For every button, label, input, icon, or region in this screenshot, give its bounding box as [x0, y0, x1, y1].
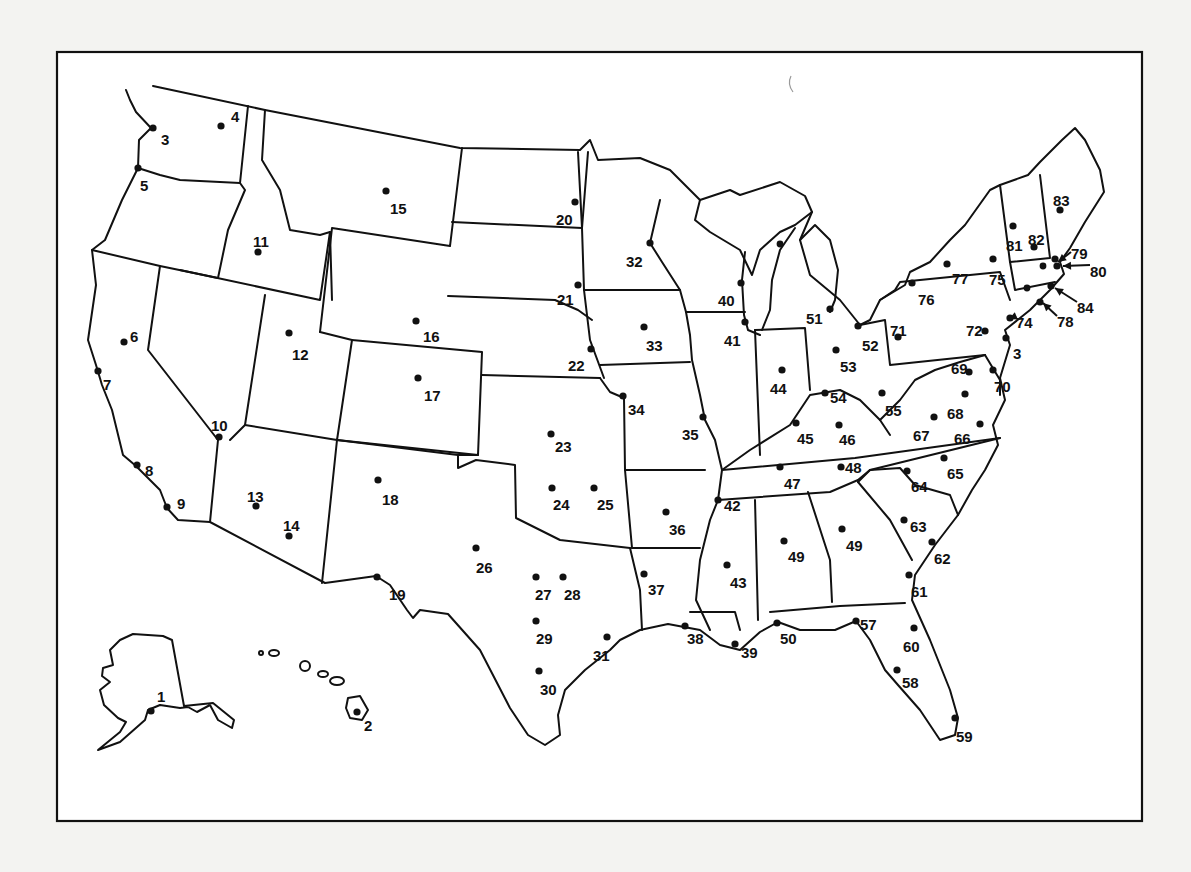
station-label: 48 — [845, 459, 862, 476]
station-dot-icon — [94, 367, 101, 374]
station-dot-icon — [1036, 298, 1043, 305]
station-dot-icon — [961, 390, 968, 397]
station-dot-icon — [285, 329, 292, 336]
station-label: 67 — [913, 427, 930, 444]
station-dot-icon — [832, 346, 839, 353]
station-dot-icon — [854, 322, 861, 329]
station-dot-icon — [1009, 222, 1016, 229]
station-label: 26 — [476, 559, 493, 576]
station-dot-icon — [838, 525, 845, 532]
station-dot-icon — [548, 484, 555, 491]
station-dot-icon — [910, 624, 917, 631]
station-label: 49 — [788, 548, 805, 565]
station-dot-icon — [940, 454, 947, 461]
station-marker: 82 — [1028, 231, 1045, 251]
station-label: 58 — [902, 674, 919, 691]
station-dot-icon — [737, 279, 744, 286]
station-label: 71 — [890, 322, 907, 339]
station-label: 16 — [423, 328, 440, 345]
station-label: 72 — [966, 322, 983, 339]
station-label: 77 — [952, 270, 969, 287]
station-label: 29 — [536, 630, 553, 647]
station-dot-icon — [640, 323, 647, 330]
station-dot-icon — [1053, 262, 1060, 269]
station-dot-icon — [414, 374, 421, 381]
station-label: 49 — [846, 537, 863, 554]
station-label: 27 — [535, 586, 552, 603]
station-label: 47 — [784, 475, 801, 492]
station-label: 82 — [1028, 231, 1045, 248]
station-label: 31 — [593, 647, 610, 664]
station-dot-icon — [951, 714, 958, 721]
station-label: 74 — [1016, 314, 1033, 331]
station-dot-icon — [776, 463, 783, 470]
station-label: 65 — [947, 465, 964, 482]
station-dot-icon — [217, 122, 224, 129]
station-dot-icon — [821, 389, 828, 396]
station-label: 83 — [1053, 192, 1070, 209]
station-label: 80 — [1090, 263, 1107, 280]
station-label: 52 — [862, 337, 879, 354]
station-label: 8 — [145, 462, 153, 479]
station-dot-icon — [532, 617, 539, 624]
station-dot-icon — [134, 164, 141, 171]
ny-west-dot-icon — [1024, 285, 1031, 292]
station-dot-icon — [535, 667, 542, 674]
station-label: 25 — [597, 496, 614, 513]
station-label: 84 — [1077, 299, 1094, 316]
station-label: 3 — [161, 131, 169, 148]
station-dot-icon — [353, 708, 360, 715]
station-label: 7 — [103, 376, 111, 393]
station-dot-icon — [532, 573, 539, 580]
station-label: 61 — [911, 583, 928, 600]
station-dot-icon — [778, 366, 785, 373]
station-label: 45 — [797, 430, 814, 447]
station-dot-icon — [826, 305, 833, 312]
station-label: 15 — [390, 200, 407, 217]
station-label: 35 — [682, 426, 699, 443]
station-dot-icon — [903, 467, 910, 474]
station-dot-icon — [878, 389, 885, 396]
station-dot-icon — [412, 317, 419, 324]
station-label: 37 — [648, 581, 665, 598]
station-dot-icon — [681, 622, 688, 629]
station-label: 21 — [557, 291, 574, 308]
station-label: 32 — [626, 253, 643, 270]
station-label: 70 — [994, 378, 1011, 395]
station-dot-icon — [1047, 282, 1054, 289]
station-dot-icon — [215, 433, 222, 440]
station-label: 46 — [839, 431, 856, 448]
station-label: 23 — [555, 438, 572, 455]
station-marker: 71 — [890, 322, 907, 341]
station-label: 60 — [903, 638, 920, 655]
station-dot-icon — [989, 366, 996, 373]
station-label: 12 — [292, 346, 309, 363]
station-label: 40 — [718, 292, 735, 309]
station-label: 69 — [951, 360, 968, 377]
station-label: 53 — [840, 358, 857, 375]
station-label: 55 — [885, 402, 902, 419]
station-label: 63 — [910, 518, 927, 535]
station-dot-icon — [662, 508, 669, 515]
station-label: 17 — [424, 387, 441, 404]
station-dot-icon — [908, 279, 915, 286]
station-dot-icon — [571, 198, 578, 205]
station-dot-icon — [699, 413, 706, 420]
station-label: 39 — [741, 644, 758, 661]
station-label: 76 — [918, 291, 935, 308]
station-dot-icon — [780, 537, 787, 544]
station-label: 43 — [730, 574, 747, 591]
station-label: 44 — [770, 380, 787, 397]
station-dot-icon — [374, 476, 381, 483]
station-label: 2 — [364, 717, 372, 734]
station-dot-icon — [640, 570, 647, 577]
station-dot-icon — [976, 420, 983, 427]
station-dot-icon — [147, 707, 154, 714]
station-label: 10 — [211, 417, 228, 434]
us-station-map: 1234567891011121314151617181920212223242… — [0, 0, 1191, 872]
station-label: 18 — [382, 491, 399, 508]
map-figure: 1234567891011121314151617181920212223242… — [0, 0, 1191, 872]
station-label: 11 — [253, 233, 269, 250]
station-label: 57 — [860, 616, 877, 633]
station-label: 34 — [628, 401, 645, 418]
